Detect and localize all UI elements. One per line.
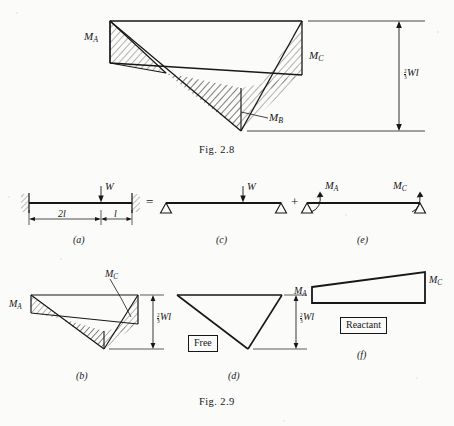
label-box-reactant: Reactant: [340, 317, 387, 334]
scan-speck: [283, 420, 285, 422]
label-box-free: Free: [188, 335, 218, 352]
moment-arrow-mc-head: [417, 192, 424, 198]
b-reactant-line: [31, 313, 138, 324]
load-arrow-a-head: [98, 196, 103, 203]
scan-speck: [16, 12, 18, 14]
label-ma-fig28: MA: [84, 31, 98, 44]
free-moment-left-limb: [110, 21, 241, 131]
label-load-w-c: W: [247, 182, 256, 193]
figure-2-8-drawing: [0, 0, 454, 168]
dimension-arrow-l-left: [101, 217, 107, 221]
load-arrow-c-head: [240, 196, 245, 203]
b-dimension-arrow-top: [151, 295, 156, 301]
label-load-w-a: W: [105, 182, 114, 193]
dimension-arrowhead-top: [396, 21, 402, 28]
dimension-arrowhead-bottom: [396, 124, 402, 131]
label-mb-fig28: MB: [269, 112, 283, 125]
label-span-2l: 2l: [58, 209, 66, 219]
pin-support-e-right: [415, 203, 426, 213]
label-ma-b: MA: [9, 299, 22, 311]
panel-letter-e: (e): [357, 235, 368, 245]
figure-2-9-row-superposition: = + W W 2l l MA MC (a) (c) (e): [0, 172, 454, 250]
figure-2-8: MA MC MB 2 3 Wl Fig. 2.8: [0, 0, 454, 168]
panel-letter-d: (d): [228, 371, 240, 381]
operator-plus: +: [291, 195, 298, 208]
label-mc-b: MC: [105, 269, 118, 281]
dimension-arrow-2l-right: [95, 217, 101, 221]
b-free-left-limb: [31, 295, 104, 349]
scan-speck: [345, 214, 347, 216]
textbook-figure-page: MA MC MB 2 3 Wl Fig. 2.8: [0, 0, 454, 426]
d-dimension-arrow-bottom: [294, 343, 299, 349]
b-dimension-arrow-bottom: [151, 343, 156, 349]
scan-speck: [8, 196, 10, 198]
moment-area-mc: [254, 21, 302, 96]
figure-2-9-caption: Fig. 2.9: [199, 396, 235, 407]
label-ma-f: MA: [294, 286, 307, 298]
panel-letter-b: (b): [76, 371, 88, 381]
panel-letter-c: (c): [216, 235, 227, 245]
fixed-support-left-hatch: [21, 194, 29, 212]
label-moment-ma-e: MA: [325, 181, 338, 192]
scan-speck: [437, 31, 439, 33]
operator-equals: =: [146, 195, 153, 208]
d-free-right-limb: [248, 295, 282, 349]
pin-support-c-right: [276, 203, 287, 213]
fixed-support-right-hatch: [132, 194, 140, 212]
label-dimension-wl-fig28: 2 3 Wl: [404, 68, 419, 80]
f-reactant-trapezium: [312, 272, 425, 303]
figure-2-9-row-diagrams: MA MC 2 3 Wl 2 3 Wl Free MA MC Reactant: [0, 255, 454, 405]
scan-speck: [416, 377, 418, 379]
label-span-l: l: [114, 209, 117, 219]
figure-2-8-caption: Fig. 2.8: [199, 144, 235, 155]
panel-letter-f: (f): [357, 350, 366, 360]
label-mc-f: MC: [429, 275, 442, 287]
moment-arrow-ma-head: [317, 192, 324, 198]
pin-support-e-left: [302, 203, 313, 213]
b-leader-mc: [110, 279, 131, 317]
label-dimension-wl-b: 2 3 Wl: [157, 312, 171, 324]
scan-speck: [60, 258, 62, 260]
dimension-arrow-l-right: [127, 217, 133, 221]
panel-letter-a: (a): [73, 235, 85, 245]
pin-support-c-left: [161, 203, 172, 213]
label-moment-mc-e: MC: [393, 181, 407, 192]
label-dimension-wl-d: 2 3 Wl: [300, 312, 314, 324]
label-mc-fig28: MC: [309, 50, 323, 63]
dimension-arrow-2l-left: [29, 217, 35, 221]
